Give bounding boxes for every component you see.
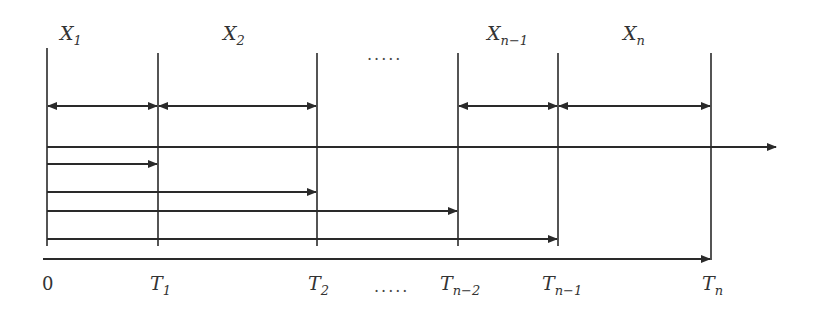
- renewal-process-diagram: X1 X2 ..... Xn−1 Xn 0 T1 T2 ..... Tn−2: [0, 0, 819, 310]
- time-label-tn: Tn: [702, 272, 723, 298]
- svg-text:Tn: Tn: [702, 272, 723, 298]
- svg-text:Xn−1: Xn−1: [485, 22, 528, 48]
- svg-text:X2: X2: [221, 22, 245, 48]
- svg-text:.....: .....: [374, 277, 409, 296]
- svg-text:.....: .....: [367, 45, 402, 64]
- interval-label-x2: X2: [221, 22, 245, 48]
- svg-text:Tn−1: Tn−1: [542, 272, 582, 298]
- svg-text:T1: T1: [150, 272, 171, 298]
- time-label-tn-2: Tn−2: [440, 272, 480, 298]
- interval-label-x1: X1: [58, 22, 82, 48]
- svg-text:X1: X1: [58, 22, 82, 48]
- time-label-t1: T1: [150, 272, 171, 298]
- svg-text:0: 0: [42, 273, 53, 294]
- interval-label-xn-1: Xn−1: [485, 22, 528, 48]
- time-label-t2: T2: [308, 272, 329, 298]
- svg-text:Xn: Xn: [621, 22, 645, 48]
- bottom-ellipsis: .....: [374, 277, 409, 296]
- interval-label-xn: Xn: [621, 22, 645, 48]
- top-ellipsis: .....: [367, 45, 402, 64]
- time-label-tn-1: Tn−1: [542, 272, 582, 298]
- time-label-0: 0: [42, 273, 53, 294]
- svg-text:T2: T2: [308, 272, 329, 298]
- svg-text:Tn−2: Tn−2: [440, 272, 480, 298]
